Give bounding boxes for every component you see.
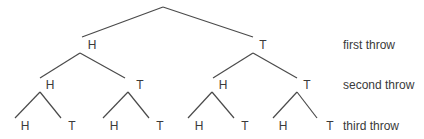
branch-HH-H bbox=[15, 92, 40, 118]
row-label-third-throw: third throw bbox=[343, 119, 399, 133]
node-l3-THT: T bbox=[241, 119, 249, 133]
node-l2-TT: T bbox=[303, 78, 311, 92]
branch-TH-H bbox=[188, 92, 212, 118]
node-l1-T: T bbox=[259, 38, 267, 52]
node-l2-HH: H bbox=[46, 78, 55, 92]
row-label-first-throw: first throw bbox=[343, 38, 395, 52]
branch-root-T bbox=[163, 7, 253, 37]
branch-HT-T bbox=[128, 92, 149, 118]
node-l2-HT: T bbox=[136, 78, 144, 92]
branch-H-T bbox=[80, 53, 125, 78]
node-l3-HTT: T bbox=[156, 119, 164, 133]
node-l3-THH: H bbox=[195, 119, 204, 133]
root-branches bbox=[82, 7, 253, 37]
node-l3-HHH: H bbox=[21, 119, 30, 133]
branch-T-T bbox=[253, 53, 297, 78]
branch-TT-H bbox=[273, 92, 297, 118]
level2-branches bbox=[40, 53, 297, 78]
branch-TT-T bbox=[297, 92, 317, 118]
node-l1-H: H bbox=[88, 38, 97, 52]
branch-HH-T bbox=[40, 92, 61, 118]
node-l3-HHT: T bbox=[68, 119, 76, 133]
branch-T-H bbox=[213, 53, 253, 78]
tree-diagram: H T H T H T H T H T H T H T first throw … bbox=[0, 0, 424, 139]
branch-TH-T bbox=[212, 92, 234, 118]
row-label-second-throw: second throw bbox=[343, 78, 415, 92]
node-l2-TH: H bbox=[219, 78, 228, 92]
branch-root-H bbox=[82, 7, 163, 37]
branch-HT-H bbox=[103, 92, 128, 118]
node-l3-TTH: H bbox=[279, 119, 288, 133]
node-l3-HTH: H bbox=[110, 119, 119, 133]
node-l3-TTT: T bbox=[326, 119, 334, 133]
branch-H-H bbox=[40, 53, 80, 78]
level3-branches bbox=[15, 92, 317, 118]
